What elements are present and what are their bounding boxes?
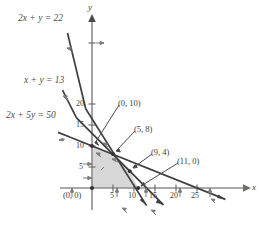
vertex-label-9-4: (9, 4) [151,148,169,157]
vertex-label-11-0: (11, 0) [177,157,199,166]
feasible-region-chart: 2x + y = 22 x + y = 13 2x + 5y = 50 (0, … [0,0,263,229]
line-label-2x-plus-5y-50: 2x + 5y = 50 [6,111,56,121]
origin-point [90,186,94,190]
x-tick-label-10: 10 [128,192,136,200]
x-tick-label-15: 15 [149,192,157,200]
vertex-label-5-8: (5, 8) [134,125,152,134]
y-tick-label-15: 15 [76,121,84,129]
y-tick-label-5: 5 [79,163,83,171]
y-axis-label: y [88,3,92,12]
line-2x-plus-5y-50-arrowhead [217,195,225,200]
line-label-x-plus-y-13: x + y = 13 [24,76,64,86]
x-tick-label-25: 25 [191,192,199,200]
y-tick-label-10: 10 [76,142,84,150]
x-tick-label-20: 20 [170,192,178,200]
line-label-2x-plus-y-22: 2x + y = 22 [18,14,63,24]
y-tick-label-20: 20 [76,100,84,108]
line-x-plus-y-13-upper [63,90,77,118]
line-2x-plus-5y-50-upper [58,132,70,137]
vertex-label-0-0: (0, 0) [63,191,81,200]
x-tick-label-5: 5 [110,192,114,200]
x-axis-arrowhead [243,184,251,192]
y-axis-arrowhead [88,14,96,22]
vertex-label-0-10: (0, 10) [118,99,141,108]
x-axis-label: x [252,183,256,192]
line-2x-plus-y-22-upper [68,33,86,109]
